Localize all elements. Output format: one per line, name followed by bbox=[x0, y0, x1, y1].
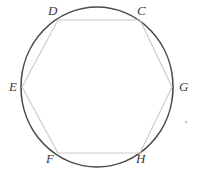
vertex-label-E: E bbox=[9, 80, 17, 93]
vertex-label-F: F bbox=[46, 152, 54, 165]
geometry-figure: D C E G F H bbox=[0, 0, 200, 175]
geometry-canvas bbox=[0, 0, 200, 175]
stray-mark bbox=[185, 121, 187, 123]
inscribed-hexagon bbox=[22, 20, 172, 153]
vertex-label-D: D bbox=[48, 4, 57, 17]
vertex-label-C: C bbox=[137, 4, 146, 17]
vertex-label-G: G bbox=[179, 80, 188, 93]
circumscribed-circle bbox=[21, 7, 173, 167]
vertex-label-H: H bbox=[136, 152, 145, 165]
